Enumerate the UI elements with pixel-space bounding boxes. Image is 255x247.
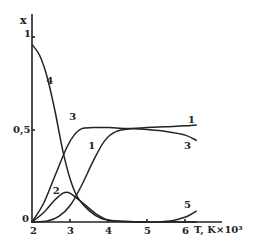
curve-label-4: 4 (46, 76, 53, 86)
x-axis-label: T, K×10³ (194, 225, 243, 235)
x-tick-label-3: 3 (67, 226, 74, 236)
x-tick-label-2: 2 (30, 226, 37, 236)
curve-label-2: 2 (53, 186, 60, 196)
curve-label-1: 1 (88, 141, 95, 151)
y-tick-label-05: 0,5 (13, 125, 30, 135)
line-chart (0, 0, 255, 247)
curve-label-3: 3 (69, 112, 76, 122)
series-line-2 (32, 192, 147, 222)
x-tick-label-6: 6 (182, 226, 189, 236)
x-tick-label-5: 5 (144, 226, 151, 236)
y-axis-label: x (20, 16, 27, 26)
series-line-3 (32, 128, 197, 222)
x-tick-label-4: 4 (105, 226, 112, 236)
y-tick-label-1: 1 (24, 29, 31, 39)
curve-label-5: 5 (184, 200, 191, 210)
curve-label-3: 3 (184, 141, 191, 151)
series-line-5 (158, 211, 196, 222)
y-tick-label-0: 0 (22, 214, 29, 224)
curve-label-1: 1 (188, 115, 195, 125)
